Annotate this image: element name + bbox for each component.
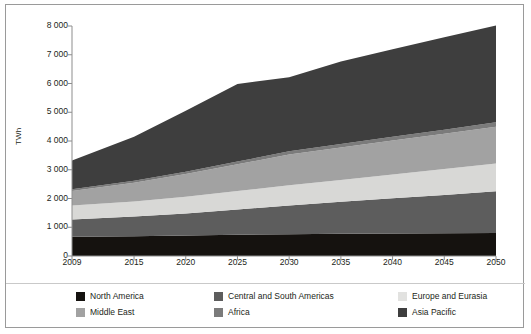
chart-plot [6,5,525,273]
y-tick-label: 7 000 [34,50,68,58]
legend-item-label: Europe and Eurasia [412,291,487,301]
x-tick-label: 2025 [217,258,257,267]
legend-swatch-icon [398,292,407,301]
legend-swatch-icon [398,308,407,317]
chart-legend: North AmericaCentral and South AmericasE… [6,283,525,327]
y-axis-label-text: TWh [14,131,23,145]
legend-item-asia-pacific[interactable]: Asia Pacific [398,307,456,317]
legend-item-label: Middle East [90,307,134,317]
stacked-area-series [72,25,496,256]
legend-swatch-icon [214,308,223,317]
chart-figure: TWh 01 0002 0003 0004 0005 0006 0007 000… [5,4,524,328]
y-tick-label: 3 000 [34,165,68,173]
y-tick-label: 2 000 [34,194,68,202]
legend-item-middle-east[interactable]: Middle East [76,307,134,317]
area-series-north-america [72,233,496,256]
x-tick-label: 2009 [52,258,92,267]
x-tick-label: 2040 [373,258,413,267]
legend-swatch-icon [76,308,85,317]
legend-divider [6,283,525,284]
x-tick-label: 2020 [166,258,206,267]
y-axis-tick-labels: 01 0002 0003 0004 0005 0006 0007 0008 00… [30,5,68,273]
y-tick-label: 1 000 [34,222,68,230]
x-tick-label: 2050 [476,258,516,267]
x-axis-tick-labels: 200920152020202520302035204020452050 [6,258,525,272]
legend-swatch-icon [214,292,223,301]
y-tick-label: 5 000 [34,107,68,115]
legend-item-africa[interactable]: Africa [214,307,250,317]
legend-swatch-icon [76,292,85,301]
x-tick-label: 2015 [114,258,154,267]
x-tick-label: 2030 [269,258,309,267]
legend-item-label: North America [90,291,144,301]
legend-item-central-and-south-americas[interactable]: Central and South Americas [214,291,334,301]
legend-item-label: Central and South Americas [228,291,334,301]
legend-item-label: Africa [228,307,250,317]
y-tick-label: 4 000 [34,136,68,144]
legend-item-north-america[interactable]: North America [76,291,144,301]
y-tick-label: 6 000 [34,79,68,87]
legend-item-europe-and-eurasia[interactable]: Europe and Eurasia [398,291,487,301]
y-axis-label: TWh [14,109,23,123]
legend-item-label: Asia Pacific [412,307,456,317]
x-tick-label: 2045 [424,258,464,267]
x-tick-label: 2035 [321,258,361,267]
y-tick-label: 8 000 [34,21,68,29]
